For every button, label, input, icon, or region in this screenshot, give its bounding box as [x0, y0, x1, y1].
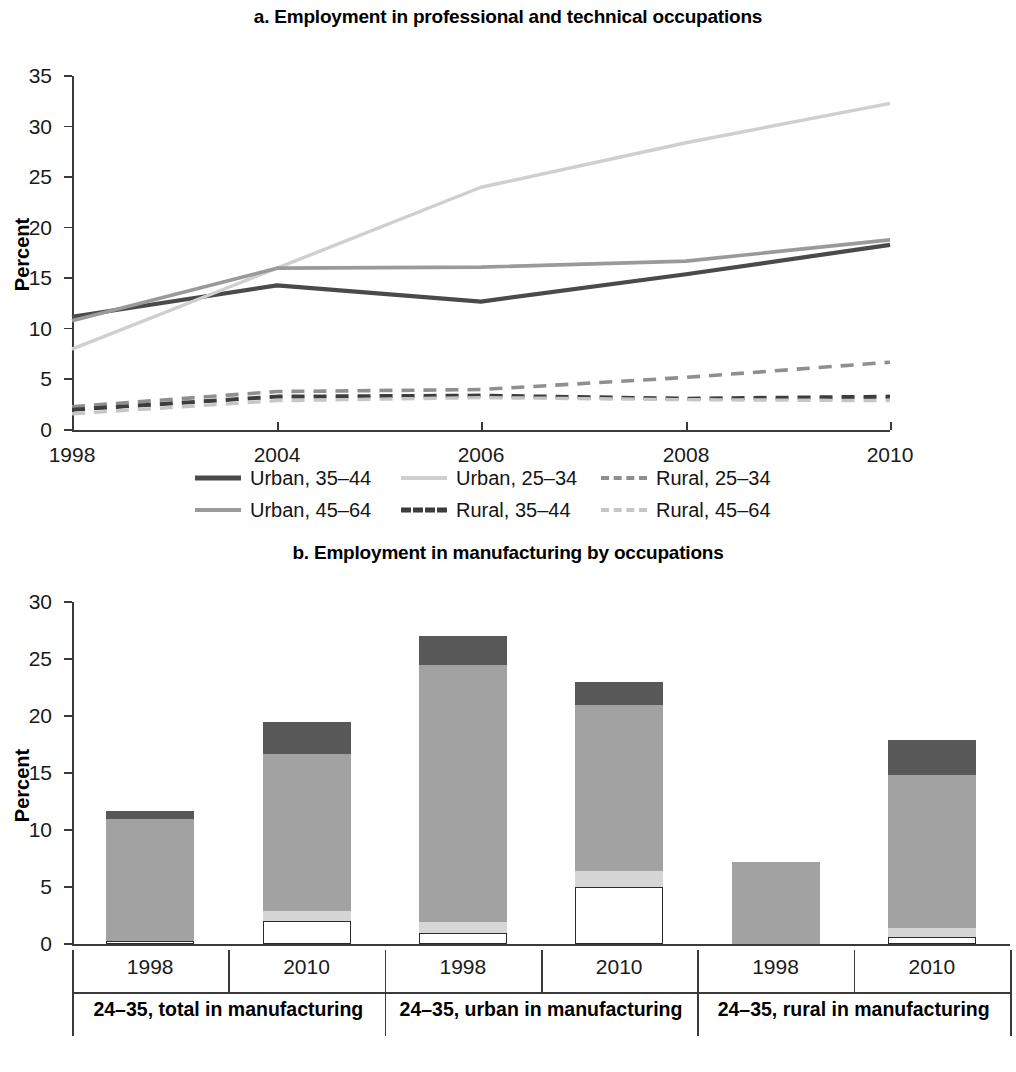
panel-b-title: b. Employment in manufacturing by occupa…: [0, 540, 1016, 564]
panel-b-group-label: 24–35, urban in manufacturing: [385, 998, 698, 1021]
panel-b-y-axis-label: Percent: [11, 749, 34, 822]
panel-a-title: a. Employment in professional and techni…: [0, 0, 1016, 28]
panel-b-year-label: 2010: [228, 956, 384, 977]
panel-b-y-tick-mark: [64, 772, 72, 774]
panel-a-line-chart: a. Employment in professional and techni…: [0, 0, 1016, 530]
panel-a-legend-label: Urban, 25–34: [456, 467, 577, 490]
bar-segment: [419, 933, 507, 944]
panel-b-year-label: 1998: [72, 956, 228, 977]
bar-segment: [263, 722, 351, 754]
bar-segment: [106, 819, 194, 941]
panel-b-y-tick-mark: [64, 658, 72, 660]
bar-segment: [575, 871, 663, 887]
panel-a-legend-item: Urban, 45–64: [195, 499, 401, 522]
bar-segment: [888, 928, 976, 937]
bar-segment: [888, 937, 976, 944]
panel-b-year-label: 1998: [385, 956, 541, 977]
panel-b-year-divider: [541, 950, 543, 992]
panel-b-group-divider: [1010, 950, 1012, 1036]
bar-segment: [106, 811, 194, 819]
stacked-bar: [263, 602, 351, 944]
panel-a-legend-label: Urban, 35–44: [250, 467, 371, 490]
panel-b-y-tick-mark: [64, 943, 72, 945]
panel-b-group-label: 24–35, rural in manufacturing: [697, 998, 1010, 1021]
panel-b-y-tick-label: 30: [0, 591, 52, 612]
panel-b-label-row-divider: [72, 992, 1010, 994]
panel-b-y-tick-mark: [64, 886, 72, 888]
figure-root: a. Employment in professional and techni…: [0, 0, 1016, 1072]
bar-segment: [263, 911, 351, 921]
panel-a-legend-label: Urban, 45–64: [250, 499, 371, 522]
stacked-bar: [732, 602, 820, 944]
stacked-bar: [888, 602, 976, 944]
panel-b-y-tick-mark: [64, 601, 72, 603]
panel-b-year-divider: [228, 950, 230, 992]
panel-a-legend: Urban, 35–44Urban, 25–34Rural, 25–34Urba…: [195, 462, 835, 526]
panel-a-legend-item: Rural, 25–34: [601, 467, 801, 490]
panel-a-series-line: [72, 245, 890, 317]
panel-b-group-label: 24–35, total in manufacturing: [72, 998, 385, 1021]
panel-a-legend-label: Rural, 45–64: [656, 499, 771, 522]
panel-b-year-divider: [854, 950, 856, 992]
panel-b-y-tick-label: 20: [0, 705, 52, 726]
bar-segment: [419, 636, 507, 665]
panel-b-y-tick-label: 25: [0, 648, 52, 669]
bar-segment: [419, 922, 507, 932]
bar-segment: [419, 665, 507, 923]
panel-b-y-tick-mark: [64, 715, 72, 717]
panel-b-y-tick-label: 5: [0, 876, 52, 897]
panel-a-legend-item: Rural, 45–64: [601, 499, 801, 522]
panel-a-legend-item: Urban, 25–34: [401, 467, 601, 490]
bar-segment: [732, 862, 820, 944]
bar-segment: [106, 941, 194, 944]
panel-b-y-tick-label: 0: [0, 933, 52, 954]
bar-segment: [263, 754, 351, 911]
bar-segment: [575, 887, 663, 944]
bar-segment: [263, 921, 351, 944]
panel-a-legend-label: Rural, 35–44: [456, 499, 571, 522]
panel-a-series-line: [72, 240, 890, 321]
panel-b-x-axis-line: [72, 944, 1010, 946]
stacked-bar: [419, 602, 507, 944]
bar-segment: [575, 705, 663, 871]
panel-b-year-label: 2010: [541, 956, 697, 977]
panel-a-legend-item: Urban, 35–44: [195, 467, 401, 490]
panel-b-year-label: 1998: [697, 956, 853, 977]
panel-a-series-line: [72, 362, 890, 407]
panel-a-series-line: [72, 398, 890, 414]
panel-a-series-line: [72, 103, 890, 349]
bar-segment: [888, 775, 976, 928]
panel-b-y-tick-mark: [64, 829, 72, 831]
stacked-bar: [106, 602, 194, 944]
bar-segment: [888, 740, 976, 775]
stacked-bar: [575, 602, 663, 944]
panel-b-y-tick-label: 10: [0, 819, 52, 840]
bar-segment: [575, 682, 663, 705]
panel-a-legend-item: Rural, 35–44: [401, 499, 601, 522]
panel-b-bars: [72, 602, 1010, 944]
panel-b-bar-chart: b. Employment in manufacturing by occupa…: [0, 540, 1016, 1072]
panel-a-legend-label: Rural, 25–34: [656, 467, 771, 490]
panel-b-year-label: 2010: [854, 956, 1010, 977]
panel-b-y-tick-label: 15: [0, 762, 52, 783]
